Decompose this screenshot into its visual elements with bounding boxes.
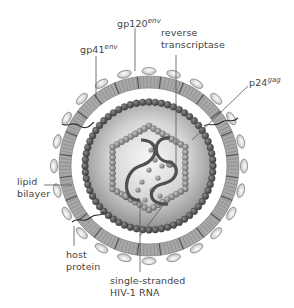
lipid-bilayer-line1: lipid — [17, 176, 50, 188]
p24-label-base: p24 — [249, 77, 267, 88]
gp120-label-base: gp120 — [117, 18, 148, 29]
reverse-transcriptase-label: reverse transcriptase — [161, 27, 225, 51]
gp41-label: gp41env — [80, 41, 118, 56]
host-protein-line2: protein — [66, 261, 100, 273]
rna-label-line2: HIV-1 RNA — [110, 287, 185, 299]
rna-label: single-stranded HIV-1 RNA — [110, 275, 185, 299]
gp120-label-sup: env — [148, 17, 161, 25]
reverse-transcriptase-line2: transcriptase — [161, 39, 225, 51]
p24-label: p24gag — [249, 74, 281, 89]
gp41-label-sup: env — [105, 43, 118, 51]
lipid-bilayer-line2: bilayer — [17, 188, 50, 200]
host-protein-label: host protein — [66, 249, 100, 273]
host-protein-line1: host — [66, 249, 100, 261]
gp120-label: gp120env — [117, 15, 161, 30]
gp41-label-base: gp41 — [80, 44, 105, 55]
hiv-virion-diagram — [0, 0, 294, 308]
reverse-transcriptase-line1: reverse — [161, 27, 225, 39]
rna-label-line1: single-stranded — [110, 275, 185, 287]
lipid-bilayer-label: lipid bilayer — [17, 176, 50, 200]
p24-label-sup: gag — [267, 76, 280, 84]
